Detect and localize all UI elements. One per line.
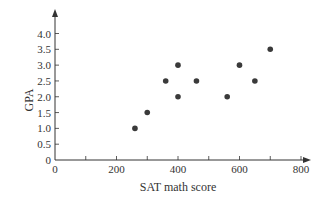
y-tick-label: 0 xyxy=(46,154,52,166)
data-point-marker xyxy=(175,62,181,68)
y-tick-label: 4.0 xyxy=(37,28,51,40)
x-tick-label: 0 xyxy=(52,163,58,175)
x-tick-label: 600 xyxy=(231,163,248,175)
data-point-marker xyxy=(252,78,258,84)
axes xyxy=(52,9,311,163)
y-tick-label: 0.5 xyxy=(37,138,51,150)
data-point-marker xyxy=(237,62,243,68)
data-point-marker xyxy=(194,78,200,84)
data-point-marker xyxy=(163,78,169,84)
scatter-chart: 020040060080000.51.01.52.02.53.03.54.0 S… xyxy=(0,0,329,198)
data-point-marker xyxy=(132,126,138,132)
x-tick-label: 800 xyxy=(293,163,310,175)
data-point-marker xyxy=(144,110,150,116)
y-axis-arrow-icon xyxy=(52,9,58,17)
data-points xyxy=(132,47,273,132)
y-tick-label: 2.5 xyxy=(37,75,51,87)
y-tick-label: 3.5 xyxy=(37,43,51,55)
data-point-marker xyxy=(175,94,181,100)
data-point-marker xyxy=(224,94,230,100)
y-tick-label: 1.5 xyxy=(37,107,51,119)
y-tick-label: 2.0 xyxy=(37,91,51,103)
data-point-marker xyxy=(267,47,273,53)
y-axis-title: GPA xyxy=(22,88,36,111)
x-axis-title: SAT math score xyxy=(140,180,216,194)
y-tick-label: 1.0 xyxy=(37,122,51,134)
x-tick-label: 400 xyxy=(170,163,187,175)
y-tick-label: 3.0 xyxy=(37,59,51,71)
x-tick-label: 200 xyxy=(108,163,125,175)
